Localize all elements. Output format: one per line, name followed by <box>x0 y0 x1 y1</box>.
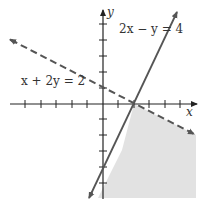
x-axis-label: x <box>186 105 193 119</box>
line2-label: x + 2y = 2 <box>21 74 85 88</box>
graph: y x 2x − y = 4 x + 2y = 2 <box>0 0 207 209</box>
y-axis-label: y <box>106 5 114 19</box>
shaded-region <box>98 104 196 198</box>
line1-label: 2x − y = 4 <box>119 22 184 36</box>
